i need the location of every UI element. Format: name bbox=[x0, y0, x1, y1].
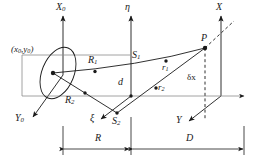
ray-label-S1: S1 bbox=[132, 50, 140, 61]
axis-label-x0: X0 bbox=[56, 2, 66, 13]
source-point-dot bbox=[51, 71, 55, 75]
ray-group bbox=[53, 48, 205, 113]
node-R1 bbox=[93, 70, 96, 73]
axis-label-x: X bbox=[216, 2, 222, 12]
source-coordinate-label: (x0,y0) bbox=[11, 45, 33, 54]
axis-label-eta: η bbox=[125, 2, 130, 12]
ray-label-R2: R2 bbox=[65, 95, 75, 106]
baseline-group bbox=[22, 55, 244, 96]
ray-label-r2: r2 bbox=[158, 83, 165, 92]
node-origin-eta bbox=[129, 94, 132, 97]
axis-label-y0: Y0 bbox=[15, 113, 24, 124]
measure-label-R: R bbox=[92, 133, 104, 143]
ray-diagram-figure: X0 η X Y0 ξ Y (x0,y0) P R1 S1 r1 R2 S2 r… bbox=[0, 0, 270, 162]
measure-label-D: D bbox=[183, 133, 196, 143]
axis-label-xi: ξ bbox=[90, 113, 94, 123]
measure-label-deltax: δx bbox=[187, 73, 196, 82]
ray-label-S2: S2 bbox=[112, 116, 120, 127]
ray-label-R1: R1 bbox=[88, 55, 98, 66]
point-label-p: P bbox=[201, 33, 207, 43]
node-R2 bbox=[83, 91, 86, 94]
measure-label-d: d bbox=[118, 77, 123, 87]
diagram-canvas bbox=[0, 0, 270, 162]
axis-label-y: Y bbox=[176, 115, 182, 125]
p-to-x-axis-dashed bbox=[205, 21, 234, 48]
ray-label-r1: r1 bbox=[162, 63, 169, 72]
